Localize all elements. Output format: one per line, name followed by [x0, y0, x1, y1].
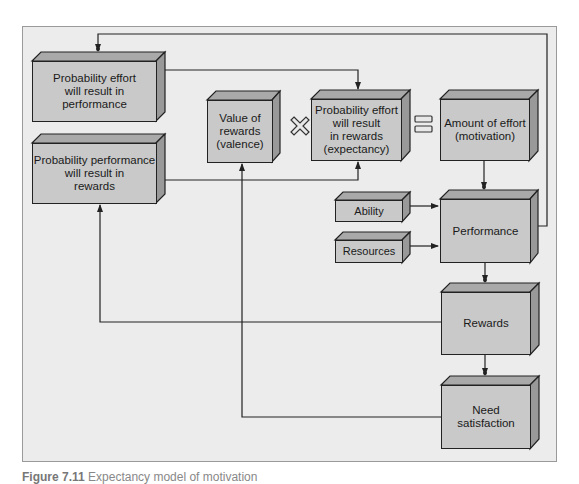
figure-label: Figure 7.11 [22, 470, 85, 484]
box-label-line: rewards [74, 180, 115, 193]
box-label-line: will result in [65, 85, 124, 98]
box-label-line: Amount of effort [444, 117, 526, 130]
box-label-line: (valence) [216, 138, 263, 151]
box-label-line: Probability effort [315, 104, 398, 117]
box-label-line: will result [333, 117, 380, 130]
edge-effort-performance-to-expectancy [163, 70, 358, 89]
box-label-line: (expectancy) [324, 143, 390, 156]
edge-performance-rewards-to-expectancy [163, 162, 358, 180]
figure-caption-text: Expectancy model of motivation [88, 470, 257, 484]
box-label-line: will result in [65, 167, 124, 180]
box-label-line: (motivation) [455, 130, 515, 143]
equals-icon [414, 115, 434, 139]
box-label-line: Need [472, 404, 500, 417]
box-label-line: Value of [219, 112, 260, 125]
box-label-line: satisfaction [457, 417, 515, 430]
box-label-line: Probability effort [53, 72, 136, 85]
box-label-line: Probability performance [34, 154, 155, 167]
box-label-line: rewards [220, 125, 261, 138]
box-label-line: in rewards [330, 130, 383, 143]
box-label-line: performance [62, 98, 127, 111]
multiply-icon [290, 116, 310, 140]
figure-caption: Figure 7.11 Expectancy model of motivati… [22, 470, 257, 484]
